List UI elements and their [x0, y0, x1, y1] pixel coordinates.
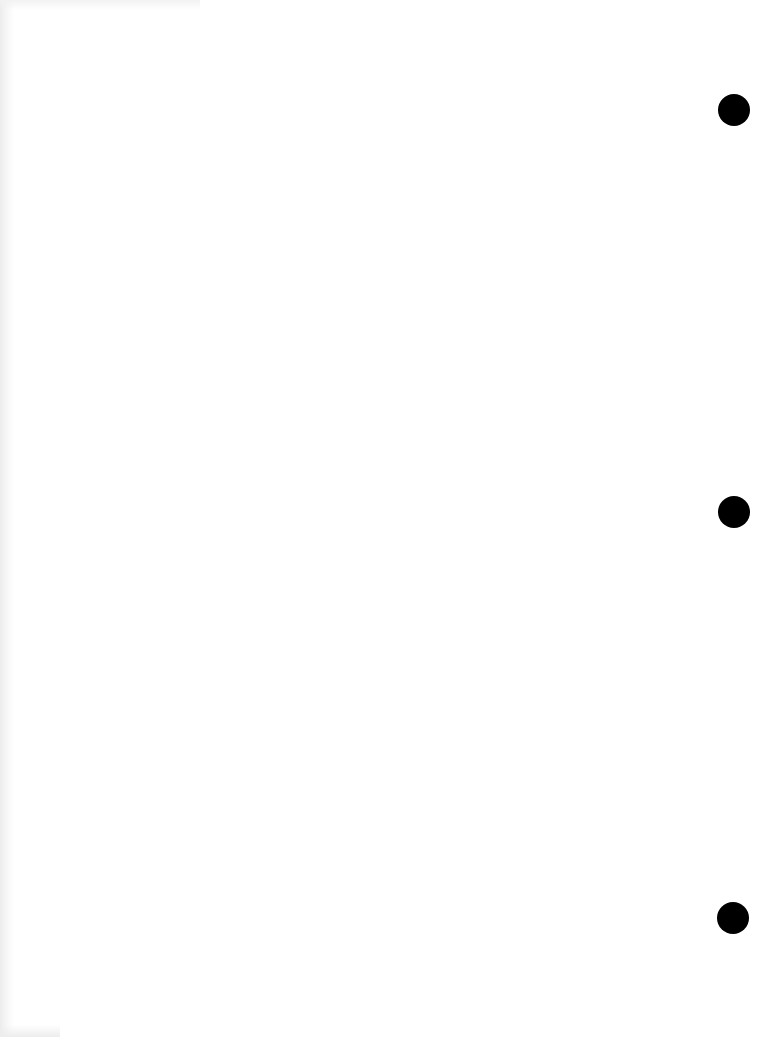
scanned-page: [0, 0, 767, 1037]
left-edge-scan-shadow: [0, 0, 14, 1037]
page-content-area: [40, 40, 680, 997]
punch-hole-top: [718, 94, 750, 126]
punch-hole-bottom: [717, 902, 749, 934]
punch-hole-middle: [718, 496, 750, 528]
bottom-edge-scan-shadow: [0, 1025, 60, 1037]
top-edge-scan-shadow: [0, 0, 200, 10]
